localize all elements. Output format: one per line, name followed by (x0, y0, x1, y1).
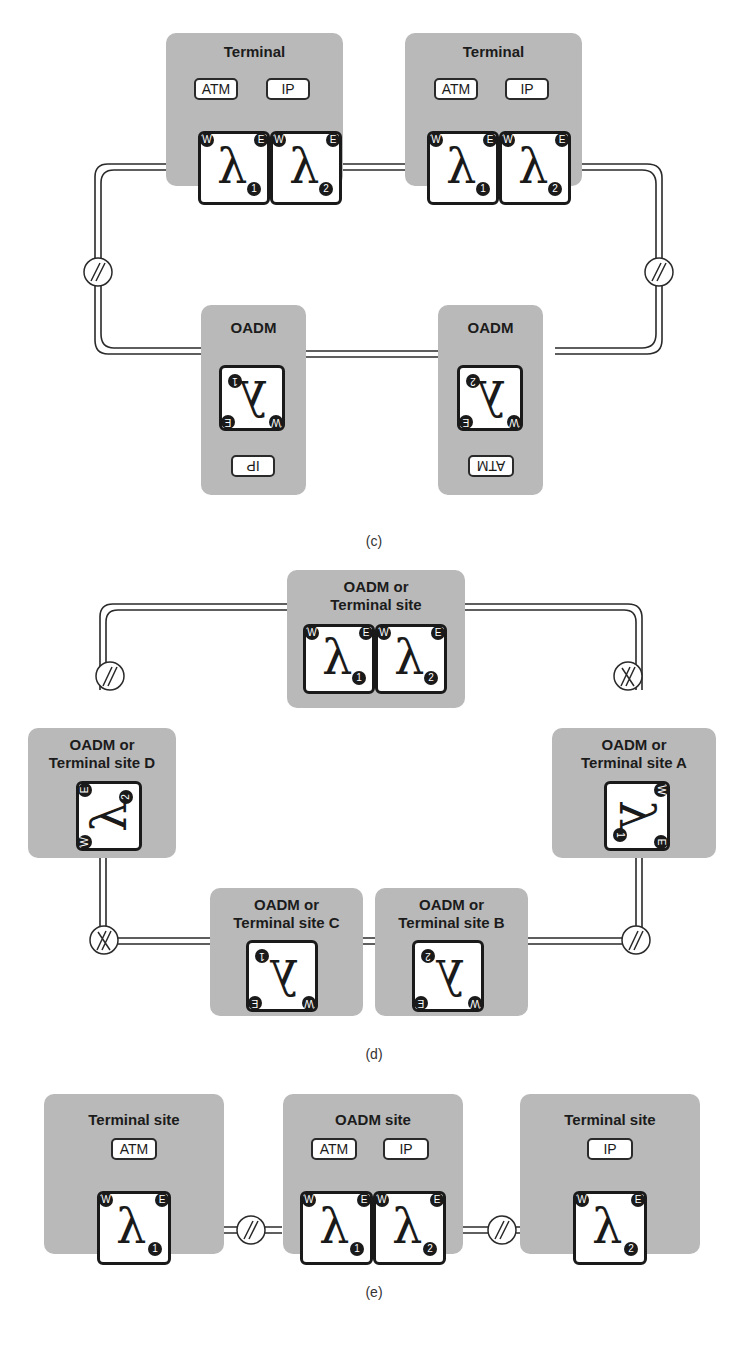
port-e: E (357, 1193, 371, 1207)
port-e: E (459, 415, 473, 429)
site-title-line1: OADM or (375, 896, 528, 914)
site-terminal-1: Terminal ATM IP W E λ 1 W E λ 2 (166, 33, 343, 186)
caption-c: (c) (354, 533, 394, 549)
site-oadm-terminal-top: OADM or Terminal site W E λ 1 W E λ 2 (287, 570, 465, 708)
site-a: OADM or Terminal site A W E λ 1 (552, 728, 716, 858)
wavelength-card-2: W E λ 2 (457, 365, 523, 431)
lambda-symbol: λ (116, 1202, 146, 1250)
port-w: W (99, 1193, 113, 1207)
lambda-symbol: λ (217, 142, 247, 190)
client-atm: ATM (194, 78, 238, 100)
client-ip: IP (587, 1138, 633, 1160)
port-w: W (375, 1193, 389, 1207)
port-e: E (430, 1193, 444, 1207)
lambda-symbol: λ (446, 142, 476, 190)
port-w: W (302, 1193, 316, 1207)
lambda-index: 1 (148, 1242, 162, 1256)
port-w: W (501, 133, 515, 147)
port-w: W (654, 783, 668, 797)
lambda-symbol: λ (518, 142, 548, 190)
port-w: W (429, 133, 443, 147)
site-title-line1: OADM or (552, 736, 716, 754)
lambda-index: 1 (247, 182, 261, 196)
site-d: OADM or Terminal site D W E λ 2 (28, 728, 176, 858)
lambda-symbol: λ (613, 800, 661, 830)
wavelength-card-1: W E λ 1 (246, 940, 318, 1012)
port-w: W (507, 415, 521, 429)
port-e: E (221, 415, 235, 429)
port-w: W (377, 626, 391, 640)
lambda-index: 2 (624, 1242, 638, 1256)
lambda-symbol: λ (85, 802, 133, 832)
site-title-line1: OADM or (28, 736, 176, 754)
site-title-line2: Terminal site B (375, 914, 528, 932)
lambda-symbol: λ (435, 953, 465, 1001)
port-e: E (326, 133, 340, 147)
lambda-index: 2 (421, 949, 435, 963)
wavelength-card-1: W E λ 1 (604, 781, 670, 851)
lambda-symbol: λ (238, 374, 268, 422)
wavelength-card-2: W E λ 2 (573, 1191, 647, 1265)
port-w: W (272, 133, 286, 147)
site-b: OADM or Terminal site B W E λ 2 (375, 888, 528, 1016)
client-atm: ATM (434, 78, 478, 100)
client-ip: IP (266, 78, 310, 100)
lambda-symbol: λ (322, 633, 352, 681)
lambda-symbol: λ (592, 1202, 622, 1250)
site-oadm-2: OADM W E λ 2 ATM (438, 305, 543, 495)
site-title: OADM (201, 319, 306, 337)
wavelength-card-2: W E λ 2 (373, 1191, 446, 1265)
site-title: OADM site (283, 1111, 463, 1129)
lambda-index: 1 (255, 949, 269, 963)
site-c: OADM or Terminal site C W E λ 1 (210, 888, 363, 1016)
port-e: E (78, 783, 92, 797)
site-title: Terminal site (44, 1111, 224, 1129)
wavelength-card-2: W E λ 2 (270, 131, 342, 205)
wavelength-card-2: W E λ 2 (499, 131, 571, 205)
wavelength-card-1: W E λ 1 (300, 1191, 373, 1265)
port-w: W (302, 996, 316, 1010)
client-atm: ATM (311, 1138, 357, 1160)
site-title-line1: OADM or (210, 896, 363, 914)
port-e: E (254, 133, 268, 147)
port-e: E (631, 1193, 645, 1207)
client-ip: IP (383, 1138, 429, 1160)
lambda-index: 2 (119, 790, 133, 804)
lambda-index: 1 (613, 828, 627, 842)
site-title: Terminal site (520, 1111, 700, 1129)
lambda-symbol: λ (394, 633, 424, 681)
lambda-index: 1 (352, 671, 366, 685)
port-e: E (483, 133, 497, 147)
lambda-index: 1 (350, 1242, 364, 1256)
wavelength-card-2: W E λ 2 (412, 940, 484, 1012)
port-w: W (78, 835, 92, 849)
port-w: W (468, 996, 482, 1010)
lambda-index: 2 (466, 374, 480, 388)
wavelength-card-2: W E λ 2 (375, 624, 447, 694)
port-e: E (555, 133, 569, 147)
site-title: Terminal (405, 43, 582, 61)
port-w: W (575, 1193, 589, 1207)
lambda-index: 2 (548, 182, 562, 196)
client-atm: ATM (468, 455, 514, 477)
site-oadm-1: OADM W E λ 1 IP (201, 305, 306, 495)
client-ip: IP (231, 455, 275, 477)
client-ip: IP (505, 78, 549, 100)
lambda-symbol: λ (392, 1202, 422, 1250)
client-atm: ATM (111, 1138, 157, 1160)
port-e: E (414, 996, 428, 1010)
wavelength-card-1: W E λ 1 (97, 1191, 171, 1265)
lambda-index: 2 (423, 1242, 437, 1256)
lambda-symbol: λ (476, 374, 506, 422)
wavelength-card-1: W E λ 1 (198, 131, 270, 205)
site-title-line2: Terminal site A (552, 754, 716, 772)
port-w: W (269, 415, 283, 429)
lambda-index: 2 (319, 182, 333, 196)
port-e: E (155, 1193, 169, 1207)
site-title-line2: Terminal site (287, 596, 465, 614)
site-title-line1: OADM or (287, 578, 465, 596)
wavelength-card-1: W E λ 1 (303, 624, 375, 694)
port-e: E (248, 996, 262, 1010)
lambda-symbol: λ (319, 1202, 349, 1250)
wavelength-card-2: W E λ 2 (76, 781, 142, 851)
